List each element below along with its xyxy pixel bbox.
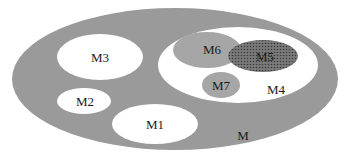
set-m5-label: M5 <box>256 49 274 64</box>
set-m4-label: M4 <box>267 82 286 97</box>
set-m2: M2 <box>57 88 111 114</box>
set-m1: M1 <box>112 104 198 144</box>
set-m1-label: M1 <box>146 117 164 132</box>
set-diagram: M3 M2 M1 M4 M6 M5 M7 M <box>0 0 347 157</box>
set-m7-label: M7 <box>212 78 231 93</box>
set-m6-label: M6 <box>203 42 222 57</box>
set-m7: M7 <box>202 72 240 98</box>
set-m2-label: M2 <box>76 94 94 109</box>
set-m3: M3 <box>57 34 143 80</box>
set-m3-label: M3 <box>91 50 109 65</box>
set-m5: M5 <box>228 40 298 72</box>
set-m-label: M <box>237 128 249 143</box>
